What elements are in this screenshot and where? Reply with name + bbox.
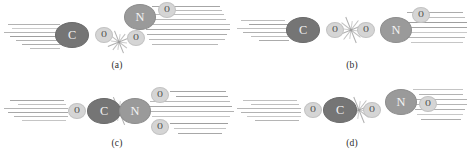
motion-line — [259, 40, 289, 41]
panel-d-molecule-diagram: OCONO — [235, 78, 469, 138]
motion-line — [22, 120, 66, 121]
panel-c-caption: (c) — [0, 138, 234, 148]
motion-line — [403, 27, 467, 28]
atom-o: O — [151, 119, 169, 135]
motion-line — [149, 39, 225, 40]
motion-line — [10, 100, 64, 101]
motion-line — [22, 44, 62, 45]
motion-line — [407, 37, 465, 38]
motion-line — [176, 96, 228, 97]
atom-o: O — [158, 2, 176, 18]
motion-line — [4, 32, 62, 33]
motion-line — [146, 29, 230, 30]
motion-line — [148, 106, 232, 107]
atom-o: O — [326, 22, 344, 38]
atom-o: O — [363, 102, 381, 118]
motion-line — [251, 104, 299, 105]
motion-line — [170, 91, 226, 92]
atom-n: N — [124, 4, 156, 30]
motion-line — [241, 20, 285, 21]
motion-line — [417, 114, 463, 115]
motion-line — [405, 32, 467, 33]
motion-line — [241, 112, 301, 113]
motion-line — [249, 24, 289, 25]
panel-c: OCNOO(c) — [0, 78, 234, 156]
atom-o: O — [68, 103, 86, 119]
motion-line — [174, 128, 226, 129]
motion-line — [251, 36, 289, 37]
atom-o: O — [127, 30, 145, 46]
atom-c: C — [87, 98, 121, 124]
motion-line — [405, 22, 467, 23]
atom-c: C — [55, 22, 89, 48]
motion-line — [411, 42, 463, 43]
motion-line — [147, 34, 227, 35]
motion-line — [237, 108, 301, 109]
panel-d-caption: (d) — [235, 138, 469, 148]
motion-line — [243, 32, 289, 33]
motion-line — [150, 111, 234, 112]
panel-a: CONOO(a) — [0, 0, 234, 78]
motion-line — [247, 116, 301, 117]
atom-c: C — [323, 97, 357, 123]
motion-line — [419, 94, 463, 95]
motion-line — [243, 100, 297, 101]
motion-line — [12, 28, 62, 29]
motion-line — [170, 123, 228, 124]
reaction-geometry-figure: CONOO(a)COONO(b)OCNOO(c)OCONO(d) — [0, 0, 469, 156]
motion-line — [4, 108, 68, 109]
motion-line — [8, 112, 68, 113]
motion-line — [237, 28, 289, 29]
atom-o: O — [419, 96, 437, 112]
panel-a-molecule-diagram: CONOO — [0, 0, 234, 60]
panel-c-molecule-diagram: OCNOO — [0, 78, 234, 138]
panel-a-caption: (a) — [0, 60, 234, 70]
motion-line — [14, 116, 68, 117]
motion-line — [413, 89, 463, 90]
motion-line — [30, 48, 60, 49]
motion-line — [152, 116, 230, 117]
motion-line — [16, 40, 62, 41]
atom-n: N — [119, 98, 151, 124]
atom-c: C — [286, 17, 320, 43]
motion-line — [18, 104, 66, 105]
panel-b-caption: (b) — [235, 60, 469, 70]
atom-o: O — [95, 27, 113, 43]
atom-n: N — [380, 17, 412, 43]
motion-line — [148, 19, 226, 20]
panel-b-molecule-diagram: COONO — [235, 0, 469, 60]
motion-line — [421, 119, 461, 120]
atom-n: N — [385, 89, 417, 115]
motion-line — [178, 133, 222, 134]
motion-line — [152, 44, 218, 45]
panel-b: COONO(b) — [235, 0, 469, 78]
panel-d: OCONO(d) — [235, 78, 469, 156]
atom-o: O — [151, 87, 169, 103]
motion-line — [255, 120, 299, 121]
motion-line — [8, 24, 60, 25]
atom-o: O — [357, 22, 375, 38]
atom-o: O — [412, 7, 430, 23]
motion-line — [150, 24, 230, 25]
atom-o: O — [304, 102, 322, 118]
